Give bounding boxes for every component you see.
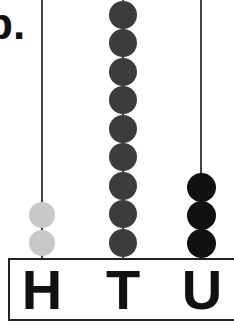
bead-tens <box>109 58 137 86</box>
bead-tens <box>109 143 137 171</box>
label-units: U <box>172 262 232 318</box>
bead-tens <box>109 29 137 57</box>
bead-tens <box>109 115 137 143</box>
bead-tens <box>109 172 137 200</box>
bead-tens <box>109 86 137 114</box>
bead-tens <box>109 200 137 228</box>
bead-units <box>187 201 216 230</box>
bead-units <box>187 173 216 202</box>
bead-tens <box>109 1 137 29</box>
bead-hundreds <box>29 230 55 256</box>
label-hundreds: H <box>12 262 72 318</box>
bead-hundreds <box>29 202 55 228</box>
question-label: b. <box>0 2 25 46</box>
bead-units <box>187 229 216 258</box>
label-tens: T <box>93 262 153 318</box>
bead-tens <box>109 229 137 257</box>
